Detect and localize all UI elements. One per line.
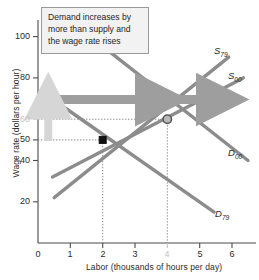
y-tick-label-100: 100 xyxy=(8,31,30,41)
equilibrium-point-2000 xyxy=(163,115,171,123)
x-tick-label-1: 1 xyxy=(63,249,77,259)
curve-label-d79-text: D xyxy=(215,208,222,219)
market-curves xyxy=(52,37,248,213)
supply-curve-s00 xyxy=(53,78,244,177)
annotation-arrows xyxy=(48,100,197,142)
y-axis-ticks xyxy=(33,37,38,202)
callout-box: Demand increases by more than supply and… xyxy=(41,7,149,54)
wage-rate-labor-market-chart: 100 80 60 50 40 20 0 1 2 3 4 5 6 Wage ra… xyxy=(0,0,259,280)
curve-label-s79-subscript: 79 xyxy=(220,51,227,58)
y-axis-title: Wage rate (dollars per hour) xyxy=(11,61,21,185)
x-tick-label-3: 3 xyxy=(128,249,142,259)
curve-label-d79-subscript: 79 xyxy=(222,214,229,221)
x-tick-label-0: 0 xyxy=(31,249,45,259)
equilibrium-point-1979 xyxy=(99,136,106,143)
x-tick-label-4: 4 xyxy=(160,249,174,259)
curve-label-d00-subscript: 00 xyxy=(235,153,242,160)
curve-label-d00-text: D xyxy=(228,147,235,158)
x-tick-label-6: 6 xyxy=(225,249,239,259)
x-tick-label-5: 5 xyxy=(193,249,207,259)
curve-label-s79: S79 xyxy=(214,45,228,58)
curve-label-d00: D00 xyxy=(228,147,242,160)
x-axis-title: Labor (thousands of hours per day) xyxy=(86,262,222,272)
x-tick-label-2: 2 xyxy=(96,249,110,259)
y-tick-label-20: 20 xyxy=(8,196,30,206)
curve-label-d79: D79 xyxy=(215,208,229,221)
x-axis-ticks xyxy=(70,243,232,248)
curve-label-s00-subscript: 00 xyxy=(234,76,241,83)
curve-label-s00: S00 xyxy=(228,70,242,83)
